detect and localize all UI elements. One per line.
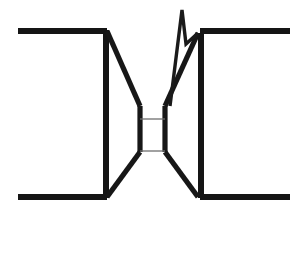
figure-canvas: [0, 0, 305, 255]
canvas-background: [0, 0, 305, 255]
line-drawing-svg: [0, 0, 305, 255]
